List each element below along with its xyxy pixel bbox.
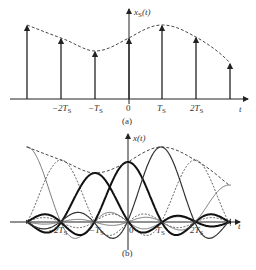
figure-a: xS(t) t −2TS −TS 0 TS 2TS (a) bbox=[10, 7, 248, 126]
tick-label-b: −TS bbox=[89, 225, 104, 237]
tick-label-a: TS bbox=[157, 103, 166, 115]
figure-b: x(t) t −2TS −TS 0 TS 2TS (b) bbox=[10, 133, 241, 258]
tick-label-a: 0 bbox=[126, 103, 131, 113]
y-label-a: xS(t) bbox=[133, 7, 150, 19]
t-label-a: t bbox=[239, 104, 242, 114]
caption-b: (b) bbox=[122, 248, 133, 258]
tick-label-a: 2TS bbox=[190, 103, 204, 115]
sampling-diagram: xS(t) t −2TS −TS 0 TS 2TS (a) x(t) t −2T… bbox=[0, 0, 256, 270]
t-label-b: t bbox=[238, 221, 241, 231]
tick-label-b: 2TS bbox=[190, 225, 204, 237]
tick-label-a: −2TS bbox=[52, 103, 72, 115]
tick-label-b: 0 bbox=[129, 225, 134, 235]
y-label-b: x(t) bbox=[132, 133, 146, 143]
tick-label-a: −TS bbox=[88, 103, 103, 115]
caption-a: (a) bbox=[122, 116, 132, 126]
